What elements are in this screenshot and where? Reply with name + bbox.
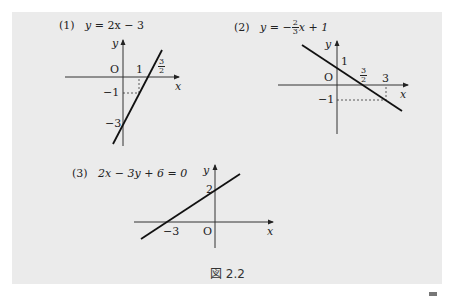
graph-3-y-label: y bbox=[203, 164, 209, 177]
graph-2-tick-neg1: −1 bbox=[318, 93, 334, 106]
graph-1-eq-rhs: = 2x − 3 bbox=[95, 19, 144, 32]
graph-2-tick-1: 1 bbox=[341, 55, 348, 68]
graph-3-x-label: x bbox=[267, 225, 273, 238]
graph-2-title: (2) y = −23x + 1 bbox=[234, 19, 328, 36]
frac-den: 2 bbox=[159, 67, 164, 75]
graph-2-y-label: y bbox=[325, 38, 331, 51]
graph-2-guide-dashed bbox=[337, 85, 386, 100]
graph-3-number: (3) bbox=[72, 167, 88, 180]
graph-3-origin: O bbox=[203, 225, 212, 238]
graph-2-tick-3: 3 bbox=[382, 72, 389, 85]
graph-2-tick-3-2: 32 bbox=[360, 67, 367, 84]
figure-caption: 図 2.2 bbox=[0, 264, 455, 281]
graph-1-tick-neg3: −3 bbox=[105, 117, 121, 130]
graph-1-y-label: y bbox=[112, 37, 118, 50]
graph-2-x-label: x bbox=[400, 88, 406, 101]
graph-1-origin: O bbox=[110, 63, 119, 76]
graph-3-tick-2: 2 bbox=[206, 183, 213, 196]
graph-1-number: (1) bbox=[59, 19, 75, 32]
graphs-canvas bbox=[0, 0, 455, 297]
graph-1-title: (1) y = 2x − 3 bbox=[59, 19, 144, 32]
graph-1-tick-3-2: 32 bbox=[158, 58, 165, 75]
graph-3-equation: 2x − 3y + 6 = 0 bbox=[98, 167, 187, 180]
graph-3-line bbox=[141, 174, 240, 239]
graph-2-number: (2) bbox=[234, 21, 250, 34]
graph-1-x-label: x bbox=[175, 80, 181, 93]
graph-2-eq-mid: = − bbox=[270, 21, 292, 34]
graph-1-guide-dashed bbox=[123, 77, 139, 93]
frac-den: 3 bbox=[293, 28, 298, 36]
graph-1 bbox=[65, 40, 179, 146]
graph-1-tick-neg1: −1 bbox=[103, 86, 119, 99]
graph-1-tick-1: 1 bbox=[136, 63, 143, 76]
graph-1-eq-lhs: y bbox=[85, 19, 91, 32]
graph-2-eq-lhs: y bbox=[260, 21, 266, 34]
graph-2-origin: O bbox=[324, 71, 333, 84]
frac-den: 2 bbox=[361, 76, 366, 84]
graph-3-tick-neg3: −3 bbox=[163, 225, 179, 238]
graph-3-title: (3) 2x − 3y + 6 = 0 bbox=[72, 167, 187, 180]
page-marker bbox=[429, 292, 437, 296]
graph-2-eq-tail: x + 1 bbox=[299, 21, 328, 34]
